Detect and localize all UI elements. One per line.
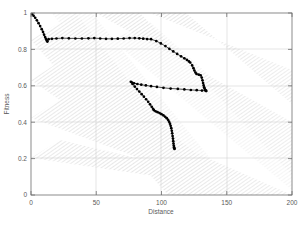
series-marker [55, 37, 58, 40]
series-marker [183, 88, 186, 91]
y-axis-title: Fitness [3, 93, 10, 115]
series-marker [201, 79, 204, 82]
series-marker [171, 135, 174, 138]
series-marker [51, 37, 54, 40]
series-marker [183, 57, 186, 60]
series-marker [61, 37, 64, 40]
series-marker [136, 83, 139, 86]
series-marker [142, 37, 145, 40]
series-marker [40, 28, 43, 31]
series-marker [145, 98, 148, 101]
series-marker [171, 132, 174, 135]
series-marker [74, 37, 77, 40]
chart-plot: 05010015020000.20.40.60.81 Distance Fitn… [0, 0, 305, 232]
series-marker [147, 100, 150, 103]
y-tick-label: 1 [23, 9, 27, 16]
series-marker [140, 83, 143, 86]
series-marker [201, 89, 204, 92]
series-marker [136, 88, 139, 91]
series-marker [133, 37, 136, 40]
series-marker [170, 127, 173, 130]
background-hatch-bands [31, 13, 292, 195]
series-marker [116, 37, 119, 40]
series-marker [176, 53, 179, 56]
series-marker [140, 93, 143, 96]
series-marker [131, 83, 134, 86]
series-marker [143, 95, 146, 98]
series-marker [46, 40, 49, 43]
series-marker [149, 103, 152, 106]
x-tick-label: 150 [221, 199, 232, 206]
series-marker [189, 61, 192, 64]
series-marker [172, 140, 175, 143]
series-marker [195, 89, 198, 92]
y-tick-label: 0.8 [18, 46, 27, 53]
series-marker [169, 87, 172, 90]
series-marker [180, 55, 183, 58]
series-marker [150, 85, 153, 88]
series-marker [170, 129, 173, 132]
series-marker [190, 89, 193, 92]
series-marker [169, 124, 172, 127]
series-marker [93, 37, 96, 40]
series-marker [133, 85, 136, 88]
series-marker [172, 137, 175, 140]
series-marker [168, 48, 171, 51]
series-marker [150, 38, 153, 41]
series-marker [111, 37, 114, 40]
series-marker [155, 40, 158, 43]
series-marker [138, 90, 141, 93]
series-marker [87, 37, 90, 40]
series-marker [81, 37, 84, 40]
series-marker [191, 64, 194, 67]
x-tick-label: 0 [29, 199, 33, 206]
x-tick-label: 200 [287, 199, 298, 206]
series-marker [144, 84, 147, 87]
series-marker [67, 37, 70, 40]
series-marker [156, 86, 159, 89]
y-tick-label: 0.6 [18, 82, 27, 89]
series-marker [160, 42, 163, 45]
series-marker [172, 50, 175, 53]
series-marker [173, 148, 176, 151]
x-tick-label: 50 [93, 199, 101, 206]
figure-container: 05010015020000.20.40.60.81 Distance Fitn… [0, 0, 305, 232]
series-marker [122, 37, 125, 40]
x-axis-title: Distance [148, 208, 174, 215]
series-marker [200, 76, 203, 79]
x-tick-label: 100 [156, 199, 167, 206]
series-marker [164, 45, 167, 48]
series-marker [39, 25, 42, 28]
series-marker [202, 82, 205, 85]
series-marker [43, 33, 46, 36]
series-marker [205, 90, 208, 93]
series-marker [192, 67, 195, 70]
series-marker [47, 38, 50, 41]
series-marker [129, 80, 132, 83]
series-marker [36, 19, 39, 22]
series-marker [105, 37, 108, 40]
series-marker [146, 38, 149, 41]
series-marker [99, 37, 102, 40]
y-tick-label: 0.2 [18, 155, 27, 162]
y-tick-label: 0.4 [18, 119, 27, 126]
series-marker [42, 31, 45, 34]
series-marker [199, 74, 202, 77]
series-marker [34, 16, 37, 19]
series-marker [176, 88, 179, 91]
series-marker [37, 22, 40, 25]
series-marker [162, 86, 165, 89]
series-marker [138, 37, 141, 40]
series-marker [128, 37, 131, 40]
y-tick-label: 0 [23, 191, 27, 198]
